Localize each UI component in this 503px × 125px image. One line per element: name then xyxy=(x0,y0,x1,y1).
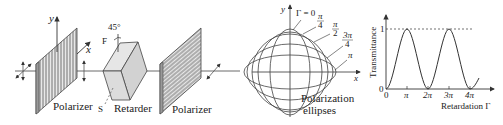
x-tick-pi: π xyxy=(404,90,409,100)
x-tick-0: 0 xyxy=(384,90,389,100)
x-axis-label: x xyxy=(85,43,91,55)
gamma-3pi4-den: 4 xyxy=(345,39,350,49)
x-tick-3pi: 3π xyxy=(443,90,454,100)
transmittance-curve xyxy=(386,29,479,89)
slow-axis-label: S xyxy=(98,104,103,114)
retarder-label: Retarder xyxy=(114,102,152,114)
angle-label: 45° xyxy=(108,22,121,32)
optical-setup: y x 45° F S Polarizer Retarder Polarizer xyxy=(15,12,240,115)
retarder-block xyxy=(103,42,147,100)
optics-figure: y x 45° F S Polarizer Retarder Polarizer… xyxy=(0,0,503,125)
angle-arc-icon xyxy=(114,37,121,40)
ellipse-y-label: y xyxy=(280,4,285,14)
x-tick-4pi: 4π xyxy=(465,90,475,100)
output-polarization-icon xyxy=(207,64,220,79)
ellipse-x-label: x xyxy=(353,73,358,83)
polarization-ellipses: x y Γ = 0 π 4 π 2 3π 4 π Polarization el… xyxy=(244,4,360,117)
y-tick-1: 1 xyxy=(380,24,385,34)
polarizer-2-label: Polarizer xyxy=(172,103,212,115)
gamma-pi2-den: 2 xyxy=(333,28,338,38)
x-tick-2pi: 2π xyxy=(423,90,433,100)
gamma-pi-label: π xyxy=(348,50,353,60)
ellipses-caption-line1: Polarization xyxy=(301,92,355,104)
fast-axis-label: F xyxy=(102,36,107,46)
gamma-0-label: Γ = 0 xyxy=(296,8,316,18)
ellipses-caption-line2: ellipses xyxy=(303,104,336,116)
transmittance-chart: 1 0 0 π 2π 3π 4π Retardation Γ Transmitt… xyxy=(368,15,494,111)
chart-y-label: Transmittance xyxy=(368,27,378,78)
polarizer-1-label: Polarizer xyxy=(53,100,93,112)
y-axis-label: y xyxy=(48,12,54,24)
chart-x-label: Retardation Γ xyxy=(441,101,490,111)
polarizer-2 xyxy=(160,28,201,114)
gamma-pi4-den: 4 xyxy=(318,20,323,30)
